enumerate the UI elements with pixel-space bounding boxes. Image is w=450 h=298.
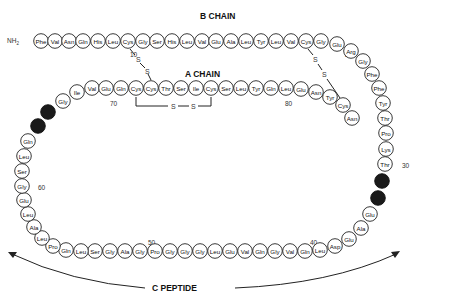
residue-label: Cys — [338, 102, 349, 109]
residue-label: Leu — [23, 211, 34, 218]
residue-label: Val — [51, 38, 59, 45]
disulfide-bond-a6-a11: S S — [136, 97, 211, 110]
residue-label: Ser — [17, 168, 27, 175]
b-chain-residue: Val — [284, 34, 299, 49]
c-peptide-label: C PEPTIDE — [152, 283, 197, 293]
b-chain-residue: Ala — [224, 34, 239, 49]
b-chain-residue: His — [165, 34, 180, 49]
sulfur-label: S — [313, 56, 318, 63]
a-chain-residue: Thr — [159, 81, 174, 96]
sulfur-label: S — [191, 103, 196, 110]
residue-label: Asp — [330, 243, 341, 250]
c-peptide-residue: Glu — [223, 244, 238, 259]
nh2-subscript: 2 — [16, 41, 19, 46]
residue-label: Ser — [152, 38, 162, 45]
residue-label: Asn — [64, 38, 75, 45]
c-peptide-residue: Val — [283, 244, 298, 259]
b-chain-residue: His — [91, 34, 106, 49]
b-chain-residue: Gln — [76, 34, 91, 49]
residue-label: Glu — [296, 86, 306, 93]
residue-label: Thr — [380, 115, 389, 122]
residue-label: Arg — [346, 48, 356, 55]
a-chain-residue: Glu — [99, 81, 114, 96]
proinsulin-diagram: B CHAIN A CHAIN C PEPTIDE NH2 S S S S S … — [0, 0, 450, 298]
residue-circle-icon — [371, 191, 386, 206]
sulfur-label: S — [171, 103, 176, 110]
position-number: 70 — [110, 100, 118, 107]
residue-label: Val — [286, 248, 294, 255]
residue-label: Ser — [221, 85, 231, 92]
residue-label: Glu — [344, 236, 354, 243]
residue-label: Gly — [180, 248, 190, 255]
residue-label: Leu — [241, 38, 252, 45]
residue-label: Asn — [347, 115, 358, 122]
b-chain-residue: Leu — [180, 34, 195, 49]
a-chain-residue: Cys — [204, 81, 219, 96]
b-chain-residue: Arg — [344, 44, 359, 59]
residue-label: Gln — [300, 248, 310, 255]
residue-label: Val — [88, 85, 96, 92]
residue-label: Gly — [135, 248, 145, 255]
residue-circle-icon — [41, 105, 56, 120]
residue-label: Gln — [266, 85, 276, 92]
residue-label: Leu — [19, 153, 30, 160]
residue-label: Tyr — [257, 38, 266, 45]
residue-label: Phe — [373, 85, 385, 92]
b-chain-residue: Thr — [378, 157, 393, 172]
residue-label: Glu — [101, 85, 111, 92]
c-peptide-residue: Leu — [21, 207, 36, 222]
residue-label: Gly — [105, 248, 115, 255]
residue-label: Glu — [365, 211, 375, 218]
residue-label: Gly — [316, 38, 326, 45]
residue-label: His — [168, 38, 177, 45]
residue-label: His — [94, 38, 103, 45]
b-chain-residue: Asn — [62, 34, 77, 49]
residue-label: Pro — [381, 130, 391, 137]
a-chain-residue: Glu — [294, 82, 309, 97]
b-chain-residue: Phe — [365, 67, 380, 82]
residue-label: Leu — [108, 38, 119, 45]
position-number: 60 — [38, 184, 46, 191]
c-peptide-residue: Leu — [17, 149, 32, 164]
residue-label: Ala — [227, 38, 237, 45]
b-chain-label: B CHAIN — [200, 11, 235, 21]
residue-label: Gly — [17, 183, 27, 190]
residue-label: Gly — [58, 98, 68, 105]
c-peptide-residue — [41, 105, 56, 120]
sulfur-label: S — [145, 68, 150, 75]
residue-label: Pro — [150, 248, 160, 255]
c-peptide-residue: Asp — [328, 239, 343, 254]
a-chain-residue: Cys — [144, 81, 159, 96]
residue-label: Gln — [78, 38, 88, 45]
c-peptide-residue: Ala — [27, 220, 42, 235]
residue-label: Leu — [182, 38, 193, 45]
residue-label: Leu — [37, 235, 48, 242]
residue-label: Leu — [210, 248, 221, 255]
residue-label: Ala — [30, 224, 40, 231]
b-chain-residue: Tyr — [254, 34, 269, 49]
a-chain-residue: Ile — [70, 85, 85, 100]
residue-label: Gly — [358, 58, 368, 65]
b-chain-residue: Tyr — [376, 96, 391, 111]
a-chain-residue: Cys — [129, 81, 144, 96]
residue-label: Glu — [211, 38, 221, 45]
b-chain-residue: Glu — [209, 34, 224, 49]
residue-label: Val — [287, 38, 295, 45]
c-peptide-residue: Leu — [74, 244, 89, 259]
b-chain-residue: Leu — [269, 34, 284, 49]
c-peptide-residue: Glu — [17, 193, 32, 208]
residue-label: Gln — [61, 247, 71, 254]
c-peptide-residue: Leu — [313, 243, 328, 258]
b-chain-residue: Cys — [121, 34, 136, 49]
residue-label: Cys — [123, 38, 134, 45]
residue-label: Tyr — [326, 94, 335, 101]
residue-label: Thr — [380, 161, 389, 168]
c-peptide-residue: Gly — [193, 244, 208, 259]
c-peptide-residue: Gly — [163, 244, 178, 259]
residue-label: Gly — [138, 38, 148, 45]
residue-label: Tyr — [379, 100, 388, 107]
b-chain-residue: Gly — [314, 34, 329, 49]
b-chain-residue: Phe — [34, 34, 49, 49]
sulfur-label: S — [322, 71, 327, 78]
residue-label: Cys — [301, 38, 312, 45]
